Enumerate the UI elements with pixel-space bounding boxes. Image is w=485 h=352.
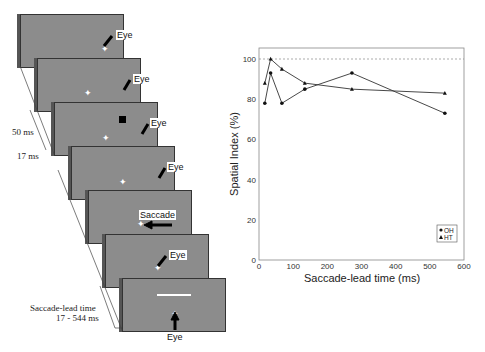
svg-text:60: 60 [247, 135, 256, 144]
y-axis-label: Spatial Index (%) [228, 112, 240, 196]
svg-text:40: 40 [247, 176, 256, 185]
svg-text:300: 300 [355, 262, 369, 271]
x-axis-label: Saccade-lead time (ms) [304, 272, 420, 284]
svg-text:500: 500 [423, 262, 437, 271]
svg-text:OH: OH [444, 227, 454, 234]
svg-text:100: 100 [243, 55, 257, 64]
svg-text:400: 400 [389, 262, 403, 271]
legend: OH HT [437, 225, 457, 242]
svg-text:HT: HT [444, 234, 453, 241]
svg-text:20: 20 [247, 216, 256, 225]
svg-text:100: 100 [286, 262, 300, 271]
svg-text:80: 80 [247, 95, 256, 104]
spatial-index-chart: 020406080100 0100200300400500600 Saccade… [0, 0, 485, 352]
svg-text:600: 600 [457, 262, 471, 271]
svg-text:200: 200 [321, 262, 335, 271]
svg-text:0: 0 [257, 262, 262, 271]
